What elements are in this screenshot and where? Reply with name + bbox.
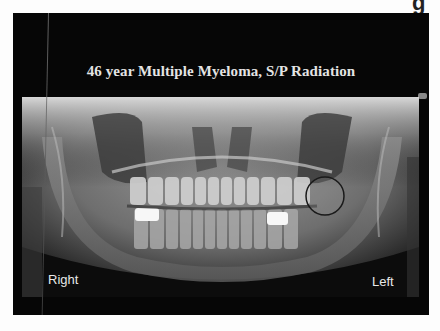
slide-title: 46 year Multiple Myeloma, S/P Radiation — [13, 63, 429, 80]
panoramic-xray-image: Right Left — [22, 97, 419, 297]
xray-illustration — [22, 97, 419, 297]
slide-marker — [418, 93, 427, 99]
presentation-slide: 46 year Multiple Myeloma, S/P Radiation — [13, 13, 429, 315]
lesion-circle-annotation — [306, 177, 344, 215]
right-side-label: Right — [48, 272, 78, 287]
left-side-label: Left — [372, 274, 394, 289]
